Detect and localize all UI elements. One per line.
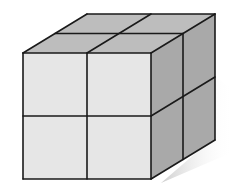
cube-figure (0, 0, 234, 188)
cube-faces (23, 14, 215, 179)
